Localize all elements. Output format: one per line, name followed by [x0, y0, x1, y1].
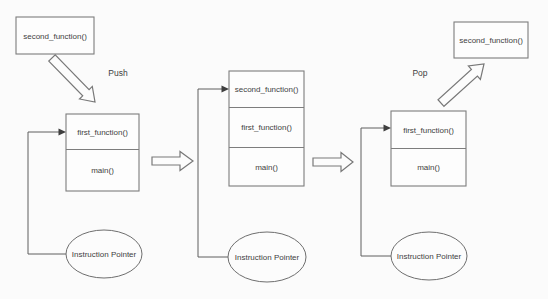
ip-connector-arrowhead-icon [384, 125, 392, 132]
push-label: Push [108, 68, 128, 78]
stack-cell-main: main() [417, 163, 440, 172]
ip-connector-line [28, 132, 66, 254]
stack-cell-main: main() [255, 163, 278, 172]
diagram-canvas: second_function() Push first_function() … [0, 0, 548, 299]
pop-arrow-icon [438, 64, 484, 106]
flow-arrow-right-icon [152, 152, 193, 171]
ip-connector-arrowhead-icon [222, 86, 230, 93]
instruction-pointer-label: Instruction Pointer [72, 250, 137, 259]
floating-box-label: second_function() [23, 32, 87, 41]
stack-cell-first-function: first_function() [77, 128, 128, 137]
stage-pop: second_function() Pop first_function() m… [361, 22, 528, 280]
ip-connector-line [198, 89, 228, 257]
floating-box-label: second_function() [459, 36, 523, 45]
flow-arrow-right-icon [313, 153, 353, 172]
stage-pushed: second_function() first_function() main(… [198, 71, 306, 282]
instruction-pointer-label: Instruction Pointer [397, 252, 462, 261]
stack-cell-first-function: first_function() [403, 126, 454, 135]
ip-connector-line [361, 128, 391, 256]
stack-cell-main: main() [91, 166, 114, 175]
stack-frame-1 [66, 114, 139, 191]
pop-label: Pop [412, 68, 427, 78]
push-arrow-icon [49, 55, 95, 102]
instruction-pointer-label: Instruction Pointer [235, 253, 300, 262]
ip-connector-arrowhead-icon [59, 129, 67, 136]
stack-cell-second-function: second_function() [235, 85, 299, 94]
stage-push: second_function() Push first_function() … [16, 17, 142, 278]
stack-cell-first-function: first_function() [241, 123, 292, 132]
